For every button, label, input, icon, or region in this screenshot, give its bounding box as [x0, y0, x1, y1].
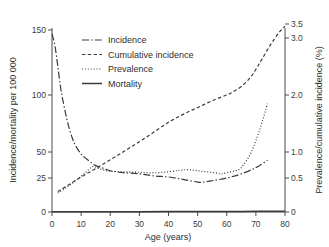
x-tick-label: 60 — [222, 219, 232, 229]
x-tick-label: 0 — [50, 219, 55, 229]
x-tick-label: 50 — [193, 219, 203, 229]
left-tick-label: 50 — [37, 147, 47, 157]
chart-background — [0, 0, 329, 247]
right-tick-label: 0.5 — [291, 173, 303, 183]
right-tick-label: 1.0 — [291, 147, 303, 157]
legend-label-prevalence: Prevalence — [108, 64, 153, 74]
x-tick-label: 30 — [135, 219, 145, 229]
left-tick-label: 150 — [32, 25, 46, 35]
left-axis-title: Incidence/mortality per 100 000 — [8, 57, 18, 183]
x-tick-label: 10 — [76, 219, 86, 229]
right-tick-label: 2.0 — [291, 90, 303, 100]
legend-label-cumulative-incidence: Cumulative incidence — [108, 50, 194, 60]
epidemiology-line-chart: 02550100150 00.51.02.03.03.5 01020304050… — [0, 0, 329, 247]
left-tick-label: 25 — [37, 173, 47, 183]
x-tick-label: 80 — [280, 219, 290, 229]
right-tick-label: 3.0 — [291, 33, 303, 43]
x-axis-title: Age (years) — [145, 232, 192, 242]
right-axis-title: Prevalence/cumulative incidence (%) — [314, 46, 324, 194]
left-tick-label: 0 — [41, 207, 46, 217]
chart-figure: 02550100150 00.51.02.03.03.5 01020304050… — [0, 0, 329, 247]
x-tick-label: 40 — [164, 219, 174, 229]
legend-label-incidence: Incidence — [108, 35, 147, 45]
x-tick-label: 70 — [251, 219, 261, 229]
right-tick-label: 0 — [291, 207, 296, 217]
series-line-mortality — [52, 211, 285, 212]
left-tick-label: 100 — [32, 90, 46, 100]
right-tick-label: 3.5 — [291, 19, 303, 29]
legend-label-mortality: Mortality — [108, 79, 143, 89]
x-tick-label: 20 — [106, 219, 116, 229]
